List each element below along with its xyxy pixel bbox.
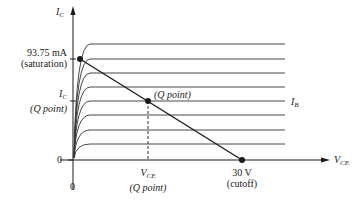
ib-label: IB bbox=[291, 96, 299, 111]
q-point-label: (Q point) bbox=[154, 89, 191, 100]
y-axis-arrow-icon bbox=[71, 6, 76, 15]
saturation-point bbox=[77, 56, 83, 62]
ib-curves bbox=[74, 44, 285, 158]
x-axis-label-sub: CE bbox=[340, 159, 349, 167]
saturation-label: 93.75 mA (saturation) bbox=[0, 47, 67, 69]
x-axis-label: VCE bbox=[334, 154, 349, 169]
x-origin-label: 0 bbox=[70, 181, 75, 192]
load-line bbox=[80, 59, 242, 160]
ib-curve bbox=[74, 101, 285, 158]
y-axis-label: IC bbox=[56, 6, 64, 21]
ib-curve bbox=[74, 144, 285, 158]
x-axis-arrow-icon bbox=[321, 158, 330, 163]
ic-q-label-sub: C bbox=[62, 93, 67, 101]
ib-label-sub: B bbox=[294, 101, 298, 109]
cutoff-label: 30 V (cutoff) bbox=[218, 167, 266, 189]
cutoff-value: 30 V bbox=[218, 167, 266, 178]
cutoff-point bbox=[239, 157, 245, 163]
vce-q-label: VCE (Q point) bbox=[122, 167, 174, 193]
y-origin-label: 0 bbox=[57, 154, 62, 165]
saturation-note: (saturation) bbox=[0, 58, 67, 69]
ib-curve bbox=[74, 59, 285, 158]
cutoff-note: (cutoff) bbox=[218, 178, 266, 189]
ib-curve bbox=[74, 73, 285, 158]
saturation-value: 93.75 mA bbox=[0, 47, 67, 58]
ic-q-label: IC (Q point) bbox=[0, 88, 67, 114]
vce-q-label-sub: CE bbox=[147, 172, 156, 180]
vce-q-note: (Q point) bbox=[122, 182, 174, 193]
q-point bbox=[145, 98, 151, 104]
ic-q-note: (Q point) bbox=[0, 103, 67, 114]
y-axis-label-sub: C bbox=[59, 11, 64, 19]
